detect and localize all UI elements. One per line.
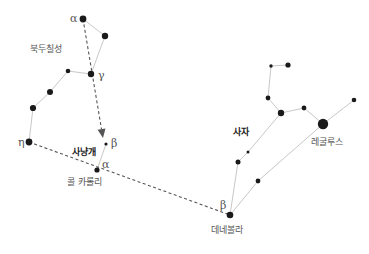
constellation-label: 사냥개 (72, 146, 96, 157)
star-ub-delta (66, 69, 71, 74)
star-leo-7 (247, 151, 250, 154)
greek-label: α (102, 158, 110, 171)
stars (26, 16, 357, 219)
star-chart: αγη북두칠성βα사냥개콜 카롤리β사자레굴루스데네볼라 (0, 0, 369, 254)
star-name-label: 레굴루스 (311, 137, 343, 147)
star-ub-zeta (30, 105, 36, 111)
labels: αγη북두칠성βα사냥개콜 카롤리β사자레굴루스데네볼라 (18, 12, 343, 235)
constellation-line (33, 92, 50, 108)
star-ub-alpha (80, 16, 87, 23)
star-leo-3 (266, 96, 271, 101)
constellation-line (268, 66, 271, 98)
star-leo-8 (236, 160, 241, 165)
star-leo-4 (278, 110, 284, 116)
star-leo-9 (256, 179, 261, 184)
star-ub-eps (47, 89, 53, 95)
star-name-label: 데네볼라 (211, 225, 244, 235)
star-cv-beta (104, 142, 107, 145)
star-leo-6 (352, 98, 357, 103)
star-leo-1 (269, 64, 272, 67)
constellation-line (29, 108, 33, 142)
arrowhead-icon (98, 128, 106, 138)
constellation-line (50, 71, 68, 92)
constellation-line (68, 71, 91, 74)
constellation-line (323, 100, 354, 124)
star-ub-eta (26, 139, 33, 146)
greek-label: γ (98, 69, 105, 82)
star-cv-alpha (94, 167, 99, 172)
star-ub-beta (102, 33, 108, 39)
greek-label: η (18, 136, 25, 149)
constellation-line (248, 113, 281, 152)
star-leo-2 (285, 62, 290, 67)
greek-label: β (111, 137, 117, 150)
star-ub-gamma (88, 71, 94, 77)
star-leo-5 (302, 106, 307, 111)
star-leo-regulus (318, 119, 328, 129)
constellation-line (258, 124, 323, 181)
constellation-label: 사자 (233, 126, 250, 137)
star-leo-denebola (227, 212, 234, 219)
constellation-line (281, 108, 304, 113)
greek-label: α (70, 12, 78, 25)
greek-label: β (220, 199, 226, 212)
constellation-line (83, 19, 105, 36)
pointer-line (29, 142, 230, 215)
constellation-label: 북두칠성 (30, 44, 62, 54)
star-name-label: 콜 카롤리 (67, 177, 102, 187)
